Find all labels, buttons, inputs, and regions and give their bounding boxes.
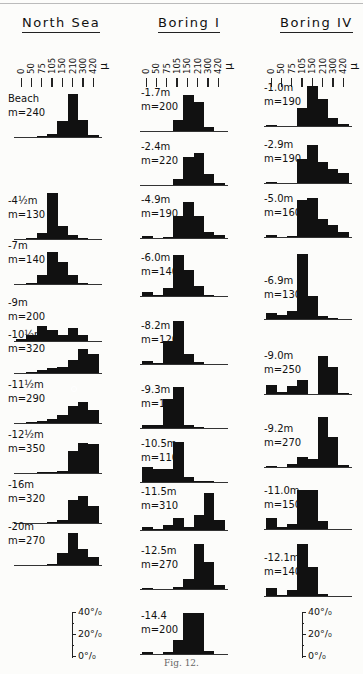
histogram-bar (47, 134, 58, 137)
histogram-bar (183, 270, 194, 296)
histogram-bar (338, 232, 349, 237)
histogram-bar (142, 361, 153, 364)
histogram-bar (266, 385, 277, 394)
sample-median: m=140 (141, 265, 178, 279)
histogram-bar (57, 121, 68, 137)
histogram-bar (57, 553, 68, 565)
sample-median: m=150 (264, 498, 301, 512)
column-north-sea: North Sea05075105150210300420μBeachm=240… (0, 0, 121, 674)
tick-label: 75 (38, 63, 47, 74)
histogram-baseline (140, 296, 228, 297)
histogram-bar (57, 262, 68, 284)
sample-median: m=190 (141, 207, 178, 221)
sample-depth: -9.3m (141, 383, 178, 397)
histogram-baseline (264, 319, 352, 320)
histogram-bar (142, 652, 153, 654)
sample-depth: -9.2m (264, 422, 301, 436)
histogram-bar (318, 417, 329, 467)
sample-label: -10.5mm=110 (141, 437, 178, 465)
histogram-bar (266, 235, 277, 237)
column-boring-i: Boring I05075105150210300420μ-1.7mm=200-… (121, 0, 242, 674)
histogram-bar (142, 588, 153, 590)
percent-scale: 40°/₀20°/₀0°/₀ (302, 608, 352, 664)
sample-label: -1.0mm=190 (264, 81, 301, 109)
sample-median: m=130 (8, 208, 45, 222)
histogram-baseline (264, 237, 352, 238)
sample-depth: -14.4 (141, 609, 178, 623)
scale-tick (302, 623, 304, 624)
histogram-bar (307, 198, 318, 237)
histogram-bar (78, 549, 89, 565)
histogram-bar (47, 564, 58, 566)
scale-tick (72, 645, 74, 646)
histogram-bar (68, 533, 79, 565)
histogram-bar (318, 316, 329, 319)
sample-depth: Beach (8, 92, 45, 106)
scale-tick (302, 634, 306, 635)
sample-median: m=160 (264, 206, 301, 220)
tick-label: 105 (48, 58, 57, 74)
scale-label: 20°/₀ (308, 628, 332, 639)
sample-depth: -1.0m (264, 81, 301, 95)
histogram-bar (276, 392, 287, 394)
sample-depth: -9m (8, 296, 45, 310)
histogram-bar (204, 493, 215, 530)
column-title: Boring I (158, 15, 220, 33)
tick-label: 300 (79, 58, 88, 74)
sample-depth: -8.2m (141, 319, 178, 333)
tick-label: 150 (58, 58, 67, 74)
sample-depth: -1.7m (141, 86, 178, 100)
sample-depth: -20m (8, 520, 45, 534)
scale-tick (72, 612, 76, 613)
sample-depth: -4½m (8, 194, 45, 208)
sample-label: -4.9mm=190 (141, 193, 178, 221)
sample-depth: -12.5m (141, 544, 178, 558)
sample-median: m=310 (141, 499, 178, 513)
histogram-baseline (264, 529, 352, 530)
sample-depth: -11½m (8, 378, 45, 392)
sample-depth: -2.4m (141, 140, 178, 154)
histogram-bar (287, 524, 298, 529)
histogram-bar (204, 562, 215, 589)
histogram-bar (307, 459, 318, 467)
histogram-bar (204, 295, 215, 297)
sample-label: -11½mm=290 (8, 378, 45, 406)
sample-depth: -11.0m (264, 484, 301, 498)
sample-label: -9.2mm=270 (264, 422, 301, 450)
histogram-bar (142, 292, 153, 296)
histogram-bar (152, 295, 163, 297)
column-boring-iv: Boring IV05075105150210300420μ-1.0mm=190… (242, 0, 363, 674)
histogram-bar (37, 136, 48, 138)
histogram-bar (287, 236, 298, 238)
scale-line (302, 612, 303, 658)
histogram-bar (276, 315, 287, 319)
histogram-baseline (264, 596, 352, 597)
histogram-bar (214, 520, 225, 530)
sample-median: m=190 (264, 152, 301, 166)
histogram-bar (318, 521, 329, 529)
scale-line (72, 612, 73, 658)
histogram-baseline (14, 137, 102, 138)
histogram-bar (338, 465, 349, 467)
histogram-bar (318, 219, 329, 237)
histogram-bar (307, 296, 318, 319)
histogram-bar (266, 313, 277, 319)
histogram-bar (68, 94, 79, 137)
sample-label: -2.4mm=220 (141, 140, 178, 168)
histogram-bar (287, 590, 298, 596)
histogram-bar (266, 588, 277, 596)
scale-label: 20°/₀ (78, 628, 102, 639)
sample-label: -12½mm=350 (8, 428, 45, 456)
histogram-bar (338, 393, 349, 395)
sample-median: m=200 (141, 623, 178, 637)
tick-label: 0 (17, 69, 26, 74)
sample-label: -10½mm=320 (8, 328, 45, 356)
sample-depth: -9.0m (264, 349, 301, 363)
histogram-bar (318, 356, 329, 394)
scale-tick (72, 634, 76, 635)
sample-label: -6.0mm=140 (141, 251, 178, 279)
tick-label: 50 (27, 63, 36, 74)
histogram-bar (318, 99, 329, 126)
sample-depth: -12½m (8, 428, 45, 442)
histogram-bar (328, 225, 339, 237)
